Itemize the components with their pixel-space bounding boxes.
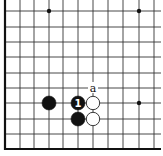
black-stone	[42, 96, 56, 110]
go-board: 1 a	[0, 0, 163, 156]
star-point-icon	[137, 101, 141, 105]
white-stone	[86, 96, 99, 109]
black-stone: 1	[71, 96, 85, 110]
black-stone	[71, 112, 85, 126]
point-label: a	[90, 82, 97, 95]
stones-layer: 1	[42, 96, 100, 126]
board-grid	[4, 0, 161, 150]
star-point-icon	[137, 9, 141, 13]
labels-layer: a	[88, 82, 98, 95]
move-number: 1	[75, 98, 82, 109]
star-point-icon	[47, 9, 51, 13]
white-stone	[86, 112, 99, 125]
